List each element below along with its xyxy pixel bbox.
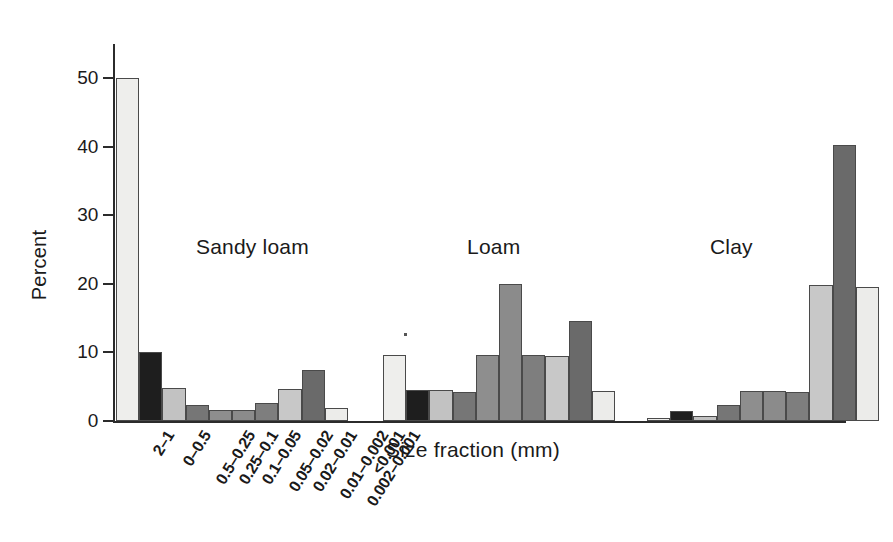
- x-axis-tick-label: 0.1–0.05: [231, 428, 232, 429]
- y-axis-tick-label: 50: [42, 68, 98, 87]
- y-axis-tick-label: 30: [42, 205, 98, 224]
- x-axis-tick-label: <0.001: [347, 428, 348, 429]
- y-axis-tick-label: 20: [42, 274, 98, 293]
- bar: [278, 389, 301, 421]
- bar: [522, 355, 545, 421]
- bar: [499, 284, 522, 421]
- y-axis-title: Percent: [29, 205, 49, 325]
- plot-area: [115, 44, 846, 421]
- x-axis-tick-label-text: 0–0.5: [180, 428, 214, 469]
- bar: [786, 392, 809, 421]
- group-label-sandy-loam: Sandy loam: [196, 236, 309, 257]
- bar: [325, 408, 348, 421]
- bar: [569, 321, 592, 421]
- bar: [302, 370, 325, 421]
- group-label-loam: Loam: [467, 236, 520, 257]
- group-label-clay: Clay: [710, 236, 753, 257]
- x-axis-line: [113, 421, 846, 423]
- bar: [255, 403, 278, 421]
- y-axis-tick-label: 40: [42, 137, 98, 156]
- bar: [162, 388, 185, 421]
- bar: [592, 391, 615, 421]
- y-axis-tick: [103, 420, 114, 422]
- scan-speck: [404, 333, 407, 336]
- y-axis-tick: [103, 351, 114, 353]
- x-axis-title: Size fraction (mm): [386, 439, 560, 460]
- x-axis-tick-label: 0.5–0.25: [185, 428, 186, 429]
- x-axis-tick-label: 0.05–0.02: [254, 428, 255, 429]
- x-axis-tick-label: 0.002–0.001: [324, 428, 325, 429]
- bar: [763, 391, 786, 421]
- x-axis-tick-label: 0–0.5: [162, 428, 163, 429]
- x-axis-tick-label: 0.25–0.1: [208, 428, 209, 429]
- y-axis-tick-label-text: 50: [52, 68, 98, 87]
- bar: [647, 418, 670, 421]
- x-axis-tick-label: 0.01–0.002: [301, 428, 302, 429]
- y-axis-tick: [103, 146, 114, 148]
- bar: [717, 405, 740, 421]
- y-axis-tick: [103, 214, 114, 216]
- bar: [232, 410, 255, 421]
- bar: [383, 355, 406, 421]
- y-axis-tick-label-text: 20: [52, 274, 98, 293]
- bar: [116, 78, 139, 421]
- x-axis-tick-label: 2–1: [138, 428, 139, 429]
- y-axis-tick-label-text: 30: [52, 205, 98, 224]
- bar: [740, 391, 763, 421]
- bar: [833, 145, 856, 421]
- bar: [139, 352, 162, 421]
- y-axis-tick: [103, 283, 114, 285]
- y-axis-tick-label-text: 40: [52, 137, 98, 156]
- y-axis-tick: [103, 77, 114, 79]
- y-axis-tick-label: 0: [42, 411, 98, 430]
- bar: [429, 390, 452, 421]
- bar: [809, 285, 832, 421]
- bar: [453, 392, 476, 421]
- y-axis-tick-label-text: 0: [52, 411, 98, 430]
- y-axis-tick-label: 10: [42, 342, 98, 361]
- bar: [693, 416, 716, 421]
- bar: [186, 405, 209, 421]
- bar: [856, 287, 879, 421]
- x-axis-tick-label-text: 2–1: [150, 428, 177, 458]
- y-axis-tick-label-text: 10: [52, 342, 98, 361]
- bar: [670, 411, 693, 421]
- bar: [209, 410, 232, 421]
- bar: [406, 390, 429, 421]
- bar-chart-figure: 01020304050 Percent Sandy loamLoamClay 2…: [0, 0, 893, 542]
- bar: [545, 356, 568, 421]
- x-axis-tick-label: 0.02–0.01: [278, 428, 279, 429]
- bar: [476, 355, 499, 421]
